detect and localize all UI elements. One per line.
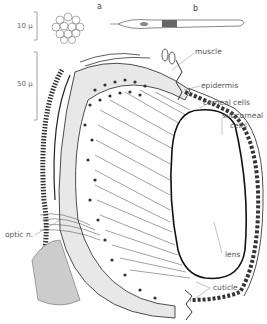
cuticle-lower xyxy=(185,290,192,320)
label-corneal-cells: corneal cells xyxy=(203,99,250,107)
panel-b-elongated-cell xyxy=(110,20,244,29)
scale-label-50: 50 µ xyxy=(17,80,33,88)
label-optic-nerve: optic n. xyxy=(5,231,33,239)
muscle-strands xyxy=(80,49,175,66)
ocellus-illustration: a b 10 µ 50 µ muscle epidermis corneal c… xyxy=(0,0,267,324)
label-lens: lens xyxy=(225,251,240,259)
scale-bar-50 xyxy=(34,52,37,120)
panel-label-b: b xyxy=(193,4,198,13)
ocellus-drawing xyxy=(0,0,267,324)
scale-bar-10 xyxy=(34,12,37,40)
label-subcorneal: subcorneal xyxy=(222,112,263,120)
label-epidermis: epidermis xyxy=(201,82,238,90)
label-subcorneal-cells: cells xyxy=(230,122,247,130)
panel-a-hex-cells xyxy=(52,13,84,44)
label-cuticle: cuticle xyxy=(213,284,238,292)
scale-label-10: 10 µ xyxy=(17,22,33,30)
panel-label-a: a xyxy=(97,2,102,11)
label-muscle: muscle xyxy=(195,48,222,56)
